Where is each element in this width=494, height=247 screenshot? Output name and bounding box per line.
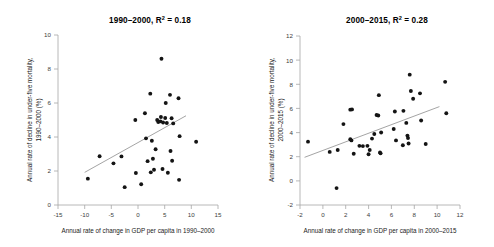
chart-panel-2000-2015: 2000–2015, R2 = 0.28 -2 0 2 4 6 8 <box>247 0 494 247</box>
data-point <box>394 138 398 142</box>
y-tick-label: 6 <box>48 99 52 106</box>
y-tick-label: -2 <box>287 201 293 208</box>
data-point <box>171 121 175 125</box>
data-point <box>341 122 345 126</box>
data-point <box>170 159 174 163</box>
data-point <box>169 149 173 153</box>
data-points-2000-2015 <box>306 73 448 190</box>
y-tick-label: 8 <box>48 65 52 72</box>
x-tick-label: -2 <box>297 211 303 218</box>
y-axis-title-line2-1990-2000: 1990–2000 (%) <box>35 98 43 141</box>
y-tick-label: 10 <box>286 57 293 64</box>
data-point <box>409 89 413 93</box>
data-point <box>368 148 372 152</box>
y-tick-label: 2 <box>290 153 294 160</box>
data-point <box>178 134 182 138</box>
x-ticks-1990-2000: -15 -10 -5 0 5 10 15 <box>54 205 222 218</box>
data-point <box>166 171 170 175</box>
data-point <box>154 147 158 151</box>
data-point <box>336 148 340 152</box>
data-point <box>370 137 374 141</box>
data-point <box>86 177 90 181</box>
data-point <box>146 159 150 163</box>
data-point <box>372 132 376 136</box>
data-point <box>377 93 381 97</box>
axes-2000-2015 <box>300 36 460 205</box>
x-ticks-2000-2015: -2 0 2 4 6 8 10 12 <box>297 205 464 218</box>
data-point <box>401 143 405 147</box>
x-tick-label: 2 <box>344 211 348 218</box>
data-point <box>392 127 396 131</box>
x-tick-label: 10 <box>434 211 441 218</box>
x-tick-label: -10 <box>80 211 90 218</box>
x-axis-title-1990-2000: Annual rate of change in GDP per capita … <box>62 227 215 235</box>
x-tick-label: -5 <box>109 211 115 218</box>
y-axis-title-line1-2000-2015: Annual rate of decline in under-five mor… <box>268 58 276 182</box>
title-prefix: 2000–2015, R <box>346 16 399 25</box>
x-tick-label: 4 <box>367 211 371 218</box>
data-point <box>143 111 147 115</box>
y-tick-label: 6 <box>290 105 294 112</box>
x-tick-label: 8 <box>413 211 417 218</box>
data-point <box>408 73 412 77</box>
data-point <box>98 154 102 158</box>
data-point <box>328 150 332 154</box>
two-panel-scatter-figure: 1990–2000, R2 = 0.18 0 2 4 6 8 10 <box>0 0 494 247</box>
data-point <box>379 131 383 135</box>
data-point <box>335 186 339 190</box>
y-tick-label: 4 <box>290 129 294 136</box>
trend-line-2000-2015 <box>305 107 440 158</box>
axes-1990-2000 <box>58 35 218 205</box>
x-tick-label: -15 <box>54 211 64 218</box>
trend-line-1990-2000 <box>85 116 186 173</box>
data-points-1990-2000 <box>86 57 198 189</box>
data-point <box>177 96 181 100</box>
data-point <box>160 57 164 61</box>
data-point <box>424 142 428 146</box>
data-point <box>170 116 174 120</box>
data-point <box>352 152 356 156</box>
scatter-plot-1990-2000: 1990–2000, R2 = 0.18 0 2 4 6 8 10 <box>0 0 247 247</box>
scatter-plot-2000-2015: 2000–2015, R2 = 0.28 -2 0 2 4 6 8 <box>247 0 494 247</box>
data-point <box>150 139 154 143</box>
x-tick-label: 12 <box>457 211 464 218</box>
title-suffix: = 0.18 <box>165 16 191 25</box>
data-point <box>379 151 383 155</box>
x-tick-label: 5 <box>163 211 167 218</box>
data-point <box>161 167 165 171</box>
data-point <box>112 161 116 165</box>
y-tick-label: 0 <box>48 201 52 208</box>
data-point <box>406 136 410 140</box>
chart-title-2000-2015: 2000–2015, R2 = 0.28 <box>346 15 428 25</box>
data-point <box>357 144 361 148</box>
data-point <box>163 116 167 120</box>
y-tick-label: 0 <box>290 177 294 184</box>
data-point <box>350 107 354 111</box>
data-point <box>177 178 181 182</box>
data-point <box>133 118 137 122</box>
data-point <box>152 168 156 172</box>
chart-title-1990-2000: 1990–2000, R2 = 0.18 <box>109 15 191 25</box>
data-point <box>367 152 371 156</box>
data-point <box>376 113 380 117</box>
data-point <box>161 121 165 125</box>
data-point <box>148 92 152 96</box>
data-point <box>194 140 198 144</box>
y-tick-label: 10 <box>44 31 51 38</box>
x-tick-label: 15 <box>215 211 222 218</box>
x-axis-title-2000-2015: Annual rate of change in GDP per capita … <box>304 227 457 235</box>
y-tick-label: 8 <box>290 81 294 88</box>
title-suffix: = 0.28 <box>402 16 428 25</box>
x-tick-label: 0 <box>321 211 325 218</box>
data-point <box>168 93 172 97</box>
data-point <box>411 97 415 101</box>
data-point <box>401 109 405 113</box>
data-point <box>149 170 153 174</box>
title-prefix: 1990–2000, R <box>109 16 162 25</box>
data-point <box>365 144 369 148</box>
data-point <box>120 154 124 158</box>
y-tick-label: 12 <box>286 32 293 39</box>
y-axis-title-line1-1990-2000: Annual rate of decline in under-five mor… <box>26 58 34 182</box>
data-point <box>134 171 138 175</box>
data-point <box>418 91 422 95</box>
